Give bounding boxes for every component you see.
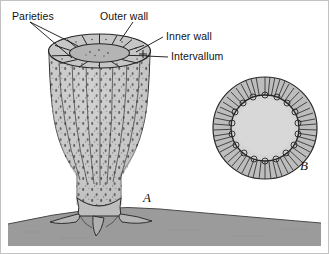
panel-caption-b: B: [300, 158, 308, 174]
label-intervallum: Intervallum: [171, 50, 223, 62]
figure-archaeocyathid: Parieties Outer wall Inner wall Interval…: [0, 0, 329, 254]
substrate-seafloor: [8, 208, 321, 247]
label-outer-wall: Outer wall: [100, 10, 148, 22]
label-parieties: Parieties: [12, 10, 54, 22]
panel-a-organism: [45, 34, 155, 236]
panel-caption-a: A: [143, 190, 151, 206]
label-inner-wall: Inner wall: [166, 30, 212, 42]
figure-illustration: [0, 0, 329, 254]
section-central-cavity: [236, 99, 294, 155]
inner-wall-rim: [70, 44, 130, 62]
